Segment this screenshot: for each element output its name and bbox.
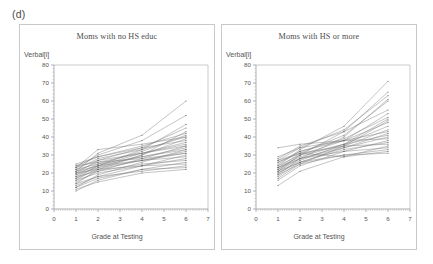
spaghetti-plot-right: 0102030405060708001234567 bbox=[222, 25, 418, 251]
svg-text:40: 40 bbox=[42, 133, 49, 140]
svg-text:80: 80 bbox=[244, 61, 251, 68]
svg-text:6: 6 bbox=[386, 215, 390, 222]
svg-text:40: 40 bbox=[244, 133, 251, 140]
figure-subplot-label: (d) bbox=[12, 8, 25, 20]
svg-text:80: 80 bbox=[42, 61, 49, 68]
chart-panel-hs-or-more: Moms with HS or more Verbal[i] 010203040… bbox=[221, 24, 417, 250]
svg-text:0: 0 bbox=[52, 215, 56, 222]
x-axis-label-right: Grade at Testing bbox=[222, 233, 416, 240]
svg-text:0: 0 bbox=[254, 215, 258, 222]
chart-panel-no-hs: Moms with no HS educ Verbal[i] 010203040… bbox=[19, 24, 215, 250]
spaghetti-plot-left: 0102030405060708001234567 bbox=[20, 25, 216, 251]
svg-text:10: 10 bbox=[42, 187, 49, 194]
svg-text:50: 50 bbox=[42, 115, 49, 122]
svg-text:2: 2 bbox=[298, 215, 302, 222]
svg-text:3: 3 bbox=[320, 215, 324, 222]
x-axis-label-left: Grade at Testing bbox=[20, 233, 214, 240]
svg-text:1: 1 bbox=[276, 215, 280, 222]
svg-text:20: 20 bbox=[42, 169, 49, 176]
svg-text:4: 4 bbox=[342, 215, 346, 222]
svg-text:50: 50 bbox=[244, 115, 251, 122]
svg-text:10: 10 bbox=[244, 187, 251, 194]
svg-text:60: 60 bbox=[244, 97, 251, 104]
svg-text:3: 3 bbox=[118, 215, 122, 222]
svg-text:1: 1 bbox=[74, 215, 78, 222]
svg-text:5: 5 bbox=[364, 215, 368, 222]
svg-text:30: 30 bbox=[42, 151, 49, 158]
svg-text:70: 70 bbox=[244, 79, 251, 86]
svg-text:20: 20 bbox=[244, 169, 251, 176]
svg-text:4: 4 bbox=[140, 215, 144, 222]
svg-text:6: 6 bbox=[184, 215, 188, 222]
svg-text:0: 0 bbox=[46, 205, 50, 212]
svg-text:2: 2 bbox=[96, 215, 100, 222]
figure-panel-d: (d) Moms with no HS educ Verbal[i] 01020… bbox=[0, 0, 433, 264]
svg-text:5: 5 bbox=[162, 215, 166, 222]
svg-text:70: 70 bbox=[42, 79, 49, 86]
svg-text:7: 7 bbox=[408, 215, 412, 222]
svg-text:30: 30 bbox=[244, 151, 251, 158]
svg-text:60: 60 bbox=[42, 97, 49, 104]
svg-text:0: 0 bbox=[248, 205, 252, 212]
svg-text:7: 7 bbox=[206, 215, 210, 222]
